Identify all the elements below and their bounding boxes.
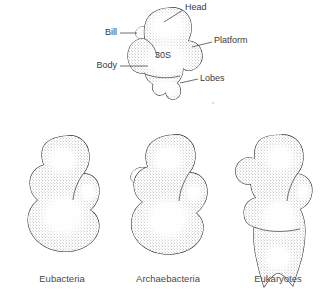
ribosome-subunit-figure: 30S Head Bill Platform Body Lobes: [0, 0, 334, 302]
specimen-eukaryotes: Eukaryotes: [232, 130, 318, 292]
eubacteria-shape: [24, 130, 106, 256]
caption-eubacteria: Eubacteria: [39, 273, 85, 284]
caption-archaebacteria: Archaebacteria: [136, 273, 201, 284]
label-bill: Bill: [105, 27, 117, 37]
label-lobes: Lobes: [200, 73, 225, 83]
scan-speck: [212, 102, 214, 104]
caption-eukaryotes: Eukaryotes: [254, 273, 302, 284]
label-body: Body: [96, 60, 117, 70]
label-head: Head: [185, 2, 207, 12]
specimen-archaebacteria: Archaebacteria: [128, 130, 210, 284]
archaebacteria-shape: [128, 130, 210, 258]
eukaryotes-shape: [232, 130, 318, 292]
label-platform: Platform: [214, 35, 248, 45]
specimen-eubacteria: Eubacteria: [24, 130, 106, 284]
leader-lobes: [180, 79, 198, 83]
top-diagram: 30S Head Bill Platform Body Lobes: [96, 2, 247, 104]
subunit-center-label: 30S: [155, 50, 171, 60]
